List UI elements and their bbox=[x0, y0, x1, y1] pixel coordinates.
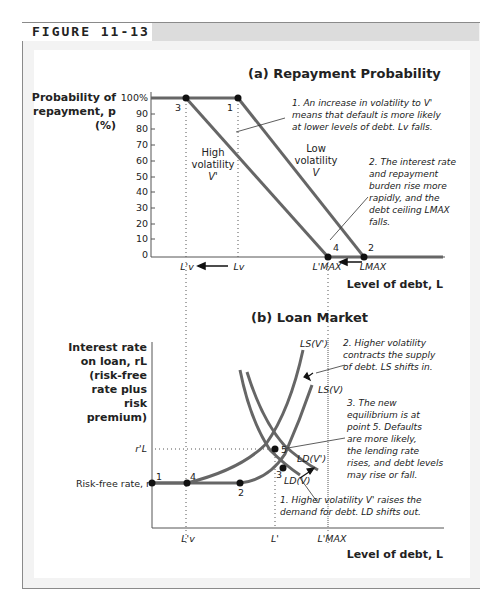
svg-text:may rise or fall.: may rise or fall. bbox=[347, 470, 417, 480]
panel-b-curve-labels: LS(V') LS(V) LD(V') LD(V) bbox=[284, 338, 343, 486]
svg-text:2. The interest rate: 2. The interest rate bbox=[369, 157, 456, 167]
svg-text:1. An increase in volatility t: 1. An increase in volatility to V' bbox=[292, 98, 432, 108]
panel-b-xmarks: L'v L' L'MAX bbox=[181, 533, 347, 544]
svg-text:of debt. LS shifts in.: of debt. LS shifts in. bbox=[343, 362, 433, 372]
svg-text:means that default is more lik: means that default is more likely bbox=[292, 110, 441, 120]
svg-text:2: 2 bbox=[368, 242, 374, 253]
svg-text:are more likely,: are more likely, bbox=[347, 434, 417, 444]
svg-text:on loan, rL: on loan, rL bbox=[81, 355, 147, 368]
svg-text:30: 30 bbox=[136, 202, 148, 213]
svg-text:(%): (%) bbox=[95, 119, 116, 132]
svg-text:LS(V'): LS(V') bbox=[300, 338, 328, 349]
panel-a-xlabel: Level of debt, L bbox=[347, 278, 443, 291]
svg-text:falls.: falls. bbox=[369, 217, 390, 227]
svg-text:volatility: volatility bbox=[294, 155, 337, 166]
annotation-b2: 2. Higher volatility contracts the suppl… bbox=[343, 338, 436, 372]
annotation-a2-leader bbox=[330, 197, 368, 240]
svg-text:70: 70 bbox=[136, 139, 148, 150]
panel-b-ytick-rl: r'L bbox=[135, 443, 147, 454]
svg-text:premium): premium) bbox=[87, 411, 147, 424]
svg-text:Probability of: Probability of bbox=[32, 91, 116, 104]
svg-text:90: 90 bbox=[136, 108, 148, 119]
svg-text:at lower levels of debt. Lv fa: at lower levels of debt. Lv falls. bbox=[292, 122, 433, 132]
svg-text:the lending rate: the lending rate bbox=[347, 446, 420, 456]
svg-text:V': V' bbox=[208, 171, 218, 182]
annotation-a1: 1. An increase in volatility to V' means… bbox=[292, 98, 441, 132]
svg-text:1. Higher volatility V' raises: 1. Higher volatility V' raises the bbox=[280, 495, 422, 505]
svg-text:Low: Low bbox=[306, 143, 326, 154]
svg-text:demand for debt. LD shifts out: demand for debt. LD shifts out. bbox=[280, 507, 421, 517]
svg-text:equilibrium is at: equilibrium is at bbox=[347, 410, 420, 420]
svg-text:L'v: L'v bbox=[180, 261, 194, 272]
svg-text:2. Higher volatility: 2. Higher volatility bbox=[343, 338, 427, 348]
svg-text:3: 3 bbox=[175, 102, 181, 113]
svg-text:3: 3 bbox=[276, 469, 282, 480]
svg-text:80: 80 bbox=[136, 123, 148, 134]
svg-text:L'v: L'v bbox=[181, 533, 195, 544]
svg-text:60: 60 bbox=[136, 155, 148, 166]
svg-text:burden rise more: burden rise more bbox=[369, 181, 447, 191]
panel-a-yticks: 100% 90 80 70 60 50 40 30 20 10 0 bbox=[121, 92, 148, 260]
svg-text:risk: risk bbox=[124, 397, 148, 410]
svg-text:2: 2 bbox=[238, 487, 244, 498]
svg-text:L'MAX: L'MAX bbox=[317, 533, 347, 544]
svg-text:rate plus: rate plus bbox=[92, 383, 148, 396]
panel-a-ylabel: Probability of repayment, p (%) bbox=[32, 91, 116, 132]
svg-text:3. The new: 3. The new bbox=[347, 398, 397, 408]
annotation-a2: 2. The interest rate and repayment burde… bbox=[369, 157, 456, 227]
ls-v-prime-curve bbox=[152, 350, 303, 483]
panel-a-tick-marks bbox=[151, 114, 155, 239]
svg-text:LD(V'): LD(V') bbox=[297, 453, 326, 464]
svg-text:10: 10 bbox=[136, 233, 148, 244]
svg-text:LMAX: LMAX bbox=[360, 261, 387, 272]
svg-text:1: 1 bbox=[227, 102, 233, 113]
panel-b-ytick-riskfree: Risk-free rate, r bbox=[76, 478, 150, 489]
svg-text:debt ceiling LMAX: debt ceiling LMAX bbox=[369, 205, 451, 215]
svg-text:L': L' bbox=[271, 533, 279, 544]
svg-text:L'MAX: L'MAX bbox=[312, 261, 342, 272]
svg-text:Lv: Lv bbox=[234, 261, 245, 272]
panel-b-points bbox=[149, 446, 287, 487]
panel-a-curve-labels: High volatility V' Low volatility V bbox=[191, 143, 337, 182]
annotation-b1: 1. Higher volatility V' raises the deman… bbox=[280, 495, 422, 517]
panel-b-title: (b) Loan Market bbox=[251, 310, 368, 325]
svg-text:r'L: r'L bbox=[135, 443, 147, 454]
svg-text:and repayment: and repayment bbox=[369, 169, 439, 179]
svg-text:LS(V): LS(V) bbox=[318, 384, 343, 395]
svg-text:Interest rate: Interest rate bbox=[68, 341, 147, 354]
svg-text:LD(V): LD(V) bbox=[284, 475, 311, 486]
svg-text:4: 4 bbox=[333, 242, 339, 253]
annotation-a1-leader bbox=[236, 118, 285, 132]
annotation-b3: 3. The new equilibrium is at point 5. De… bbox=[346, 398, 443, 480]
svg-text:5: 5 bbox=[281, 444, 287, 455]
svg-text:rises, and debt levels: rises, and debt levels bbox=[347, 458, 443, 468]
svg-text:repayment, p: repayment, p bbox=[33, 105, 116, 118]
svg-text:volatility: volatility bbox=[191, 159, 234, 170]
annotation-b2-leader bbox=[316, 365, 345, 373]
svg-text:0: 0 bbox=[142, 249, 148, 260]
svg-text:point 5. Defaults: point 5. Defaults bbox=[346, 422, 422, 432]
svg-text:V: V bbox=[313, 167, 321, 178]
panel-b-xlabel: Level of debt, L bbox=[347, 548, 443, 561]
svg-text:4: 4 bbox=[190, 471, 196, 482]
svg-text:contracts the supply: contracts the supply bbox=[343, 350, 436, 360]
panel-b-ylabel: Interest rate on loan, rL (risk-free rat… bbox=[68, 341, 147, 424]
svg-text:100%: 100% bbox=[121, 92, 148, 103]
svg-text:40: 40 bbox=[136, 186, 148, 197]
svg-text:50: 50 bbox=[136, 171, 148, 182]
svg-text:20: 20 bbox=[136, 218, 148, 229]
svg-text:(risk-free: (risk-free bbox=[89, 369, 147, 382]
panel-b-curves bbox=[152, 350, 318, 483]
svg-text:rapidly, and the: rapidly, and the bbox=[369, 193, 440, 203]
panel-a-title: (a) Repayment Probability bbox=[248, 66, 441, 81]
svg-text:High: High bbox=[202, 147, 225, 158]
svg-text:1: 1 bbox=[156, 471, 162, 482]
